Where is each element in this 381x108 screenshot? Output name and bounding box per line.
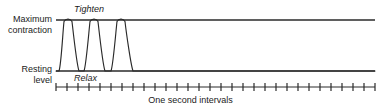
figure-caption: One second intervals xyxy=(0,95,381,106)
muscle-tension-trace xyxy=(56,19,375,71)
muscle-contraction-figure: Maximum contraction Resting level Tighte… xyxy=(0,0,381,108)
contraction-plot xyxy=(0,0,381,108)
plot-geometry-group xyxy=(56,19,375,91)
